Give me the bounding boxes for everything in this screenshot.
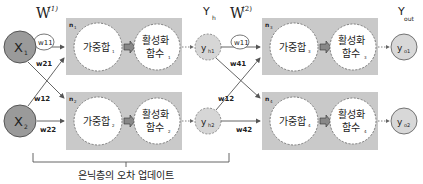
weight-w21-label: w21	[36, 60, 52, 68]
activation-node	[134, 98, 180, 144]
hidden-neuron-1: n 1 가중합 1 활성화 함수 1	[66, 18, 182, 75]
svg-text:활성화: 활성화	[142, 34, 169, 46]
svg-text:n: n	[265, 95, 269, 102]
output-node-2: y o2	[391, 108, 417, 134]
svg-text:out: out	[404, 15, 414, 22]
layer2-connections	[216, 47, 260, 121]
activation-node	[330, 24, 376, 70]
layer1-connections	[28, 47, 64, 121]
svg-text:y: y	[397, 43, 403, 53]
svg-text:활성화: 활성화	[142, 108, 169, 120]
svg-text:X: X	[14, 40, 23, 55]
svg-text:(1): (1)	[48, 5, 58, 13]
svg-text:가중합: 가중합	[83, 116, 110, 127]
activation-node	[330, 98, 376, 144]
svg-text:함수: 함수	[342, 122, 360, 133]
svg-text:y: y	[201, 43, 207, 53]
svg-text:함수: 함수	[342, 48, 360, 59]
weight-w11-label: w11	[38, 39, 53, 47]
bracket-label: 은닉층의 오차 업데이트	[78, 169, 174, 181]
weight-l2-w11-label: w11	[234, 39, 249, 47]
svg-text:가중합: 가중합	[279, 42, 306, 53]
svg-text:o2: o2	[404, 122, 410, 128]
svg-text:함수: 함수	[146, 122, 164, 133]
weight-l2-w42-label: w42	[236, 126, 252, 134]
svg-text:활성화: 활성화	[338, 108, 365, 120]
hidden-neuron-2: n 2 가중합 2 활성화 함수 2	[66, 92, 182, 150]
svg-text:가중합: 가중합	[279, 116, 306, 127]
input-node-x1: X 1	[4, 31, 36, 63]
input-node-x2: X 2	[4, 105, 36, 137]
neural-network-diagram: W (1) Y h W (2) Y out w11 w21 w12 w22 X …	[0, 0, 423, 184]
svg-text:y: y	[397, 117, 403, 127]
weight-l2-w12-label: w12	[218, 95, 234, 103]
svg-text:n: n	[69, 21, 73, 28]
svg-text:함수: 함수	[146, 48, 164, 59]
svg-text:2: 2	[24, 123, 28, 130]
weight-l2-w41-label: w41	[230, 60, 246, 68]
weight-w12-label: w12	[34, 95, 50, 103]
svg-text:Y: Y	[202, 5, 210, 18]
svg-text:h1: h1	[208, 48, 214, 54]
svg-text:활성화: 활성화	[338, 34, 365, 46]
hidden-output-node-1: y h1	[195, 34, 221, 60]
activation-node	[134, 24, 180, 70]
svg-text:가중합: 가중합	[83, 42, 110, 53]
weight-w22-label: w22	[40, 126, 56, 134]
output-neuron-2: n 4 가중합 4 활성화 함수 4	[262, 92, 378, 150]
svg-text:h: h	[212, 14, 216, 21]
svg-text:1: 1	[24, 49, 28, 56]
output-neuron-1: n 3 가중합 3 활성화 함수 3	[262, 18, 378, 75]
output-label: Y out	[397, 5, 414, 22]
svg-text:n: n	[265, 21, 269, 28]
svg-text:X: X	[14, 114, 23, 129]
svg-text:h2: h2	[208, 122, 214, 128]
svg-text:(2): (2)	[242, 5, 252, 13]
svg-text:o1: o1	[404, 48, 410, 54]
weight-label-layer1: W (1)	[36, 5, 58, 21]
output-node-1: y o1	[391, 34, 417, 60]
svg-text:n: n	[69, 95, 73, 102]
hidden-output-label: Y h	[202, 5, 216, 21]
svg-text:y: y	[201, 117, 207, 127]
hidden-output-node-2: y h2	[195, 108, 221, 134]
weight-label-layer2: W (2)	[230, 5, 252, 21]
bracket	[33, 153, 229, 167]
